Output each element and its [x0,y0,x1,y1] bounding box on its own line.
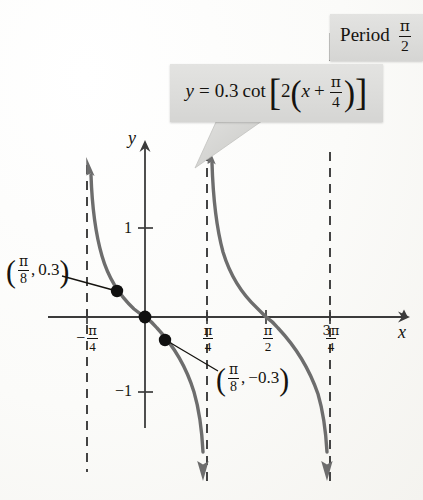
point-lower-paren-close: ) [279,365,289,394]
equation-bracket-close: ] [355,77,367,109]
period-numerator: π [398,19,412,36]
point-lower-dot [159,334,171,346]
x-axis-label: x [398,322,406,343]
x-tick-label-pi-over-2: π 2 [246,325,290,354]
y-tick-label-neg-one: −1 [104,382,132,400]
equation-text: y=0.3cot[2(x+ π 4 )] [186,76,368,110]
x-tick-3pi-4-fraction: 3π 4 [321,324,342,353]
period-denominator: 2 [399,36,411,54]
x-tick-3pi-4-denominator: 4 [326,338,337,353]
point-upper-paren-open: ( [6,257,16,286]
point-lower-x-denominator: 8 [228,378,239,394]
x-tick-label-pi-over-4: π 4 [186,325,230,354]
y-tick-label-one: 1 [110,219,132,237]
x-tick-pi-2-fraction: π 2 [262,324,275,353]
point-upper-x-fraction: π 8 [17,255,30,286]
x-tick-pi-2-numerator: π [262,324,275,338]
equation-phase-numerator: π [329,75,343,92]
equation-coefficient: 2 [281,80,291,101]
point-upper-comma: , [31,260,35,279]
x-tick-3pi-4-numerator: 3π [321,324,342,338]
point-upper-y-value: 0.3 [38,260,59,279]
equation-paren-close: ) [344,77,355,109]
period-callout-box: Period π 2 [330,14,423,61]
x-tick-label-neg-pi-over-4: − π 4 [66,325,110,354]
curve-arrowheads [86,145,332,481]
point-upper-x-numerator: π [17,255,30,270]
point-lower-y-value: −0.3 [248,368,279,387]
x-tick-pi-2-denominator: 2 [263,338,274,353]
asymptote-group [87,152,330,486]
x-tick-pi-4-fraction: π 4 [202,324,215,353]
equation-plus: + [314,80,325,101]
equation-bracket-open: [ [269,77,281,109]
x-tick-neg-pi-4-sign: − [76,329,85,346]
x-tick-neg-pi-4-numerator: π [86,324,99,338]
equation-lhs: y [186,80,194,101]
point-upper-x-denominator: 8 [18,270,29,286]
period-callout-text: Period π 2 [340,20,413,54]
period-word: Period [340,25,390,46]
x-tick-pi-4-numerator: π [202,324,215,338]
period-fraction: π 2 [398,19,412,53]
equation-callout-box: y=0.3cot[2(x+ π 4 )] [170,64,383,122]
curve-arrow-up-left [86,157,94,176]
equation-amplitude: 0.3 [215,80,239,101]
equation-callout-tail [195,121,262,168]
point-upper-label: ( π 8 ,0.3) [6,256,70,287]
equation-phase-denominator: 4 [330,92,342,110]
point-lower-paren-open: ( [216,365,226,394]
y-axis-label: y [128,128,136,149]
point-upper-paren-close: ) [60,257,70,286]
curve-branch-2-upper [212,163,266,317]
x-tick-pi-4-denominator: 4 [203,338,214,353]
figure-stage: Period π 2 y=0.3cot[2(x+ π 4 )] ( π 8 ,0… [0,0,423,500]
curve-group [91,163,327,452]
point-upper-dot [111,285,123,297]
x-tick-neg-pi-4-fraction: π 4 [86,324,99,353]
point-lower-comma: , [241,368,245,387]
point-origin-dot [139,311,152,324]
equation-paren-open: ( [291,77,302,109]
point-lower-label: ( π 8 ,−0.3) [216,364,289,395]
equation-phase-fraction: π 4 [329,75,343,109]
equation-function: cot [242,80,265,101]
point-lower-x-fraction: π 8 [227,363,240,394]
x-tick-neg-pi-4-denominator: 4 [87,338,98,353]
equation-variable: x [302,80,310,101]
point-lower-x-numerator: π [227,363,240,378]
equation-equals: = [199,80,210,101]
x-tick-label-three-pi-over-4: 3π 4 [305,325,357,354]
